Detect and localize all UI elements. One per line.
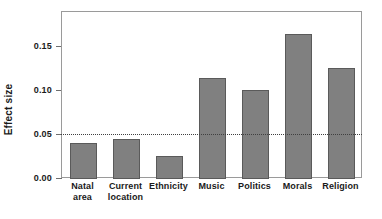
y-tick-label: 0.10 bbox=[6, 86, 52, 95]
x-axis-category-label: Morals bbox=[276, 181, 319, 192]
y-tick-label: 0.05 bbox=[6, 130, 52, 139]
x-axis-category-label: Ethnicity bbox=[147, 181, 190, 192]
bar bbox=[285, 34, 312, 179]
bar-chart-figure: Effect size 0.000.050.100.15 Natal areaC… bbox=[0, 0, 382, 219]
y-tick-mark bbox=[56, 178, 62, 179]
bar bbox=[156, 156, 183, 179]
x-axis-category-label: Natal area bbox=[61, 181, 104, 202]
x-axis-category-label: Music bbox=[190, 181, 233, 192]
bar bbox=[113, 139, 140, 179]
y-axis-title: Effect size bbox=[0, 0, 18, 219]
reference-line bbox=[61, 134, 362, 135]
y-tick-label: 0.00 bbox=[6, 174, 52, 183]
y-tick-label: 0.15 bbox=[6, 42, 52, 51]
x-axis-category-label: Religion bbox=[319, 181, 362, 192]
bar bbox=[199, 78, 226, 179]
x-axis-category-label: Politics bbox=[233, 181, 276, 192]
bar bbox=[328, 68, 355, 179]
plot-area bbox=[61, 11, 362, 178]
x-axis-category-label: Current location bbox=[104, 181, 147, 202]
bar bbox=[70, 143, 97, 179]
